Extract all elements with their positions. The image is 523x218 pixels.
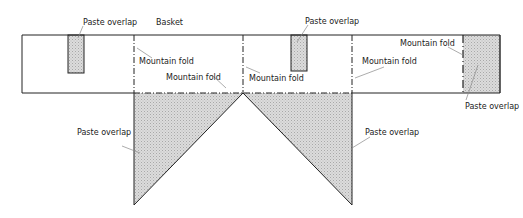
label-mountain-fold-4: Mountain fold [362,58,417,66]
paste-overlap-end-panel [463,35,500,93]
paste-overlap-tab-left [68,35,84,73]
label-paste-overlap-triangle-right: Paste overlap [365,129,419,137]
label-paste-overlap-tab-mid: Paste overlap [305,18,359,26]
label-mountain-fold-3: Mountain fold [249,75,304,83]
label-mountain-fold-2: Mountain fold [166,74,221,82]
label-basket: Basket [156,19,183,27]
label-paste-overlap-end: Paste overlap [465,103,519,111]
label-mountain-fold-1: Mountain fold [139,58,194,66]
label-mountain-fold-5: Mountain fold [400,40,455,48]
label-paste-overlap-triangle-left: Paste overlap [77,129,131,137]
label-paste-overlap-tab-left: Paste overlap [83,19,137,27]
basket-template-diagram [0,0,523,218]
paste-overlap-tab-mid [291,35,307,71]
